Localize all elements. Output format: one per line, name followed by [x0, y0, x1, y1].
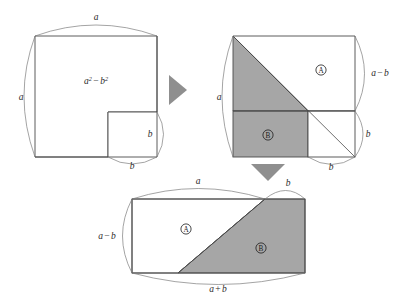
- panel3-apb-first: a: [209, 284, 214, 294]
- panel-3-assembled-rectangle: a b a−b a+b A B: [98, 176, 305, 294]
- panel3-bottom-arc: [132, 273, 305, 285]
- panel1-top-arc: [35, 25, 157, 36]
- panel2-right-lower-arc: [355, 111, 363, 157]
- panel3-top-arc-left: [132, 189, 265, 200]
- panel2-region-b-letter: B: [266, 132, 271, 140]
- panel3-ab-first: a: [98, 231, 103, 241]
- panel3-apb-second: b: [222, 284, 227, 294]
- panel2-right-upper-arc: [355, 36, 365, 111]
- panel1-left-arc: [24, 36, 35, 157]
- transform-arrow-right: [169, 75, 187, 105]
- panel2-region-a-letter: A: [318, 67, 324, 75]
- panel-2-split-square: a a−b b b A B: [217, 36, 389, 172]
- panel3-top-arc-right-label: b: [286, 178, 291, 188]
- panel3-region-b-letter: B: [259, 245, 264, 253]
- panel1-top-arc-label: a: [94, 12, 99, 22]
- panel3-top-arc-left-label: a: [196, 176, 201, 186]
- panel3-left-arc-label: a−b: [98, 231, 116, 241]
- panel3-ab-operator: −: [104, 231, 109, 241]
- panel1-cutout-right-arc: [157, 112, 164, 157]
- panel3-ab-second: b: [111, 231, 116, 241]
- panel3-apb-operator: +: [215, 284, 220, 294]
- panel3-region-a-letter: A: [183, 226, 189, 234]
- panel1-cutout-right-arc-label: b: [148, 129, 153, 139]
- panel1-cutout-bottom-arc-label: b: [130, 161, 135, 171]
- panel3-bottom-arc-label: a+b: [209, 284, 227, 294]
- panel1-area-b-exp: 2: [105, 75, 108, 82]
- panel2-bottom-arc-label: b: [329, 162, 334, 172]
- panel2-right-upper-arc-label: a−b: [371, 68, 389, 78]
- panel2-ab-first: a: [371, 68, 376, 78]
- diagram-canvas: a a b b a2−b2: [0, 0, 408, 301]
- panel1-left-arc-label: a: [19, 92, 24, 102]
- panel1-area-expression: a2−b2: [84, 75, 108, 86]
- panel3-left-arc: [123, 199, 133, 273]
- panel2-right-lower-arc-label: b: [366, 129, 371, 139]
- panel2-region-b: [233, 111, 308, 157]
- transform-arrow-down: [251, 164, 285, 181]
- panel-1-notched-square: a a b b a2−b2: [19, 12, 164, 171]
- panel3-top-arc-right: [265, 191, 305, 200]
- panel2-left-arc: [222, 36, 233, 157]
- panel1-area-operator: −: [93, 76, 98, 86]
- panel2-left-arc-label: a: [217, 92, 222, 102]
- panel1-area-a-exp: 2: [89, 75, 92, 82]
- arrow-right-icon: [169, 75, 187, 105]
- difference-of-squares-figure: a a b b a2−b2: [0, 0, 408, 301]
- panel2-ab-second: b: [384, 68, 389, 78]
- panel2-ab-operator: −: [377, 68, 382, 78]
- arrow-down-icon: [251, 164, 285, 181]
